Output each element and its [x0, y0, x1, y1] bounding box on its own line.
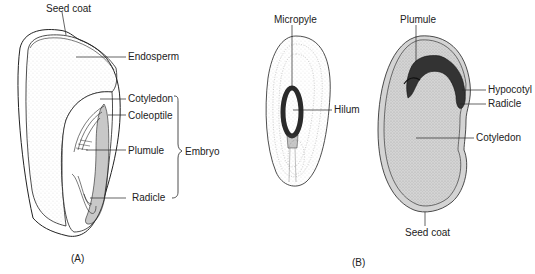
seed-diagram: Seed coat Endosperm Cotyledon Coleoptile…	[0, 0, 535, 274]
embryo-brace	[172, 96, 182, 198]
label-embryo: Embryo	[185, 146, 220, 157]
label-endosperm: Endosperm	[128, 51, 179, 62]
caption-a: (A)	[71, 253, 84, 264]
label-radicle-a: Radicle	[132, 192, 166, 203]
label-plumule-a: Plumule	[128, 145, 165, 156]
label-seed-coat-b: Seed coat	[405, 227, 450, 238]
figure-b-internal-view: Plumule Hypocotyl Radicle Cotyledon Seed…	[378, 14, 532, 238]
label-coleoptile: Coleoptile	[128, 110, 173, 121]
label-radicle-b: Radicle	[488, 98, 522, 109]
label-plumule-b: Plumule	[400, 14, 437, 25]
caption-b: (B)	[352, 257, 365, 268]
label-hypocotyl: Hypocotyl	[488, 84, 532, 95]
label-cotyledon-a: Cotyledon	[128, 93, 173, 104]
label-cotyledon-b: Cotyledon	[476, 132, 521, 143]
figure-b-external-view: Micropyle Hilum	[266, 14, 359, 186]
label-hilum: Hilum	[334, 104, 360, 115]
figure-a-corn-seed: Seed coat Endosperm Cotyledon Coleoptile…	[18, 3, 220, 264]
label-seed-coat-a: Seed coat	[46, 3, 91, 14]
label-micropyle: Micropyle	[274, 14, 317, 25]
